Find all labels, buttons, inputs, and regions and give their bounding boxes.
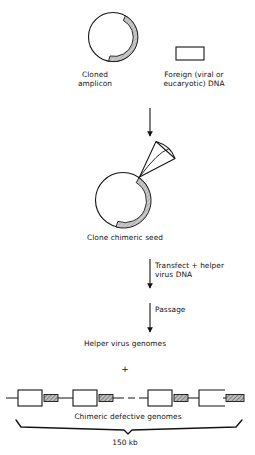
genome-unit-box-open <box>199 390 225 406</box>
diagram-canvas <box>0 0 255 455</box>
label-chimeric-defective-genomes: Chimeric defective genomes <box>43 412 213 421</box>
genome-unit-box <box>148 390 172 406</box>
label-foreign-dna: Foreign (viral or eucaryotic) DNA <box>142 70 246 89</box>
cloned-amplicon-group <box>89 13 138 62</box>
label-plus-sign: + <box>105 365 145 374</box>
label-passage: Passage <box>155 305 235 314</box>
genome-unit-hatch <box>99 395 113 402</box>
genome-unit-hatch <box>44 395 58 402</box>
foreign-dna-box <box>176 47 204 60</box>
span-brace <box>16 420 242 434</box>
chimeric-seed-group <box>96 142 176 229</box>
figure-root: Cloned amplicon Foreign (viral or eucary… <box>0 0 255 455</box>
label-clone-chimeric-seed: Clone chimeric seed <box>55 233 195 242</box>
label-transfect-helper-virus-dna: Transfect + helper virus DNA <box>155 261 251 280</box>
genome-unit-hatch <box>174 395 188 402</box>
genome-unit-box <box>18 390 42 406</box>
cloned-amplicon-shaded-arc <box>109 16 138 62</box>
genome-array-group <box>6 390 244 406</box>
chimeric-seed-shaded-arc <box>116 178 151 228</box>
label-helper-virus-genomes: Helper virus genomes <box>45 339 205 348</box>
label-150-kb: 150 kb <box>90 438 160 447</box>
cone-wedge-outline <box>140 142 176 178</box>
genome-unit-hatch-terminal <box>226 395 244 402</box>
label-cloned-amplicon: Cloned amplicon <box>55 70 135 89</box>
genome-unit-box <box>73 390 97 406</box>
